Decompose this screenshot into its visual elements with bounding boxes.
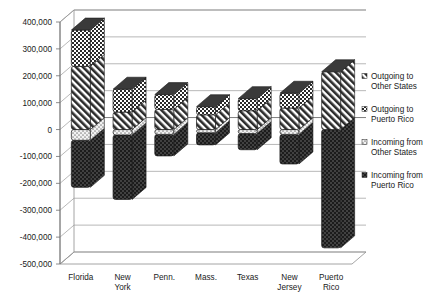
x-axis-category-label: York	[115, 283, 132, 292]
bar-segment	[71, 130, 90, 141]
bar-segment	[280, 108, 299, 130]
bar-segment	[155, 134, 174, 156]
bar-segment	[113, 89, 132, 112]
x-axis-category-label: Rico	[323, 283, 340, 292]
bar-segment	[155, 109, 174, 129]
bar-segment	[238, 111, 257, 130]
legend-label: Puerto Rico	[371, 181, 414, 190]
x-axis-category-label: New	[114, 273, 130, 282]
legend-label: Outgoing to	[371, 105, 414, 114]
x-axis-category-label: New	[281, 273, 297, 282]
y-axis-tick-label: -100,000	[20, 152, 53, 161]
legend-swatch	[362, 74, 367, 79]
y-axis-tick-label: 400,000	[22, 18, 52, 27]
bar-segment	[238, 130, 257, 134]
bar-segment	[113, 130, 132, 135]
bar-segment	[197, 115, 216, 130]
bar-segment	[155, 95, 174, 110]
y-axis-tick-label: -300,000	[20, 206, 53, 215]
x-axis-category-label: Florida	[68, 273, 93, 282]
bar-segment	[113, 135, 132, 200]
bar-segment	[197, 133, 216, 145]
y-axis: 400,000300,000200,000100,0000-100,000-20…	[20, 18, 60, 269]
bar-segment	[280, 130, 299, 135]
bar-segment	[113, 112, 132, 129]
legend-label: Puerto Rico	[371, 115, 414, 124]
x-axis-category-label: Puerto	[319, 273, 344, 282]
bar-segment	[197, 130, 216, 133]
y-axis-tick-label: 0	[47, 126, 52, 135]
y-axis-tick-label: 300,000	[22, 45, 52, 54]
bar-segment-side	[341, 118, 355, 248]
legend-label: Incoming from	[371, 138, 423, 147]
x-axis-category-label: Jersey	[277, 283, 302, 292]
legend: Outgoing toOther StatesOutgoing toPuerto…	[362, 72, 423, 190]
legend-label: Outgoing to	[371, 72, 414, 81]
legend-label: Other States	[371, 148, 417, 157]
migration-stacked-column-chart: 400,000300,000200,000100,0000-100,000-20…	[0, 0, 448, 304]
bar-segment	[280, 134, 299, 164]
bar-segment-side	[132, 123, 146, 200]
y-axis-tick-label: -500,000	[20, 260, 53, 269]
bar-segment	[155, 130, 174, 135]
legend-label: Incoming from	[371, 171, 423, 180]
bar-segment	[71, 30, 90, 66]
bar-segment-side	[90, 54, 104, 129]
bar-segment	[71, 140, 90, 187]
x-axis-category-label: Texas	[237, 273, 258, 282]
y-axis-tick-label: -400,000	[20, 233, 53, 242]
legend-swatch	[362, 140, 367, 145]
bar-segment	[322, 72, 341, 130]
bars-group	[71, 18, 354, 248]
legend-swatch	[362, 173, 367, 178]
chart-canvas: 400,000300,000200,000100,0000-100,000-20…	[0, 0, 448, 304]
legend-label: Other States	[371, 82, 417, 91]
x-axis-category-label: Mass.	[195, 273, 217, 282]
x-axis-category-label: Penn.	[154, 273, 175, 282]
bar-segment	[197, 107, 216, 115]
y-axis-tick-label: 100,000	[22, 99, 52, 108]
y-axis-tick-label: -200,000	[20, 179, 53, 188]
y-axis-tick-label: 200,000	[22, 72, 52, 81]
bar-segment	[71, 66, 90, 129]
bar-segment	[238, 134, 257, 150]
legend-swatch	[362, 107, 367, 112]
bar-segment	[238, 99, 257, 111]
bar-segment	[322, 130, 341, 248]
x-axis: FloridaNewYorkPenn.Mass.TexasNewJerseyPu…	[68, 273, 343, 292]
bar-segment	[280, 93, 299, 108]
